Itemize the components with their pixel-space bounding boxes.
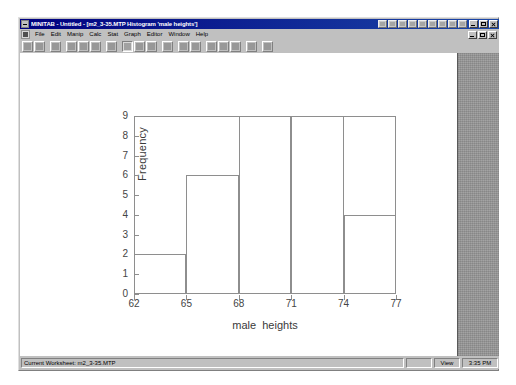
child-system-menu-icon[interactable] — [21, 30, 30, 39]
menu-bar: File Edit Manip Calc Stat Graph Editor W… — [20, 29, 499, 40]
toolbar-overflow-icon-5[interactable] — [418, 20, 427, 28]
toolbar-overflow-icon-7[interactable] — [438, 20, 447, 28]
y-axis-tick-label: 6 — [122, 171, 128, 179]
status-view-pane: View — [434, 358, 460, 368]
x-axis-tick-label: 74 — [329, 299, 359, 309]
toolbar-overflow-icon-3[interactable] — [398, 20, 407, 28]
x-axis-label: male heights — [134, 319, 396, 331]
brush-icon[interactable] — [146, 41, 157, 52]
y-axis-tick-label: 1 — [122, 270, 128, 278]
y-axis-tick-label: 4 — [122, 211, 128, 219]
system-menu-icon[interactable] — [21, 20, 29, 28]
menu-item-calc[interactable]: Calc — [86, 31, 104, 38]
current-worksheet-icon[interactable] — [178, 41, 189, 52]
histogram-plot: Frequency male heights 01234567896265687… — [20, 53, 457, 356]
paste-icon[interactable] — [90, 41, 101, 52]
child-restore-button[interactable] — [478, 31, 487, 39]
screenshot-page: MINITAB - Untitled - [m2_3-35.MTP Histog… — [0, 0, 516, 385]
toolbar-overflow-icon-6[interactable] — [428, 20, 437, 28]
child-minimize-button[interactable] — [468, 31, 477, 39]
y-axis-tick-mark — [134, 215, 139, 216]
window-title: MINITAB - Untitled - [m2_3-35.MTP Histog… — [31, 21, 378, 28]
histogram-bar[interactable] — [344, 215, 396, 294]
y-axis-tick-label: 3 — [122, 231, 128, 239]
menu-item-file[interactable]: File — [32, 31, 48, 38]
cancel-icon[interactable] — [246, 41, 257, 52]
child-close-button[interactable] — [488, 31, 497, 39]
maximize-button[interactable] — [479, 20, 488, 28]
open-worksheet-icon[interactable] — [34, 41, 45, 52]
show-info-icon[interactable] — [230, 41, 241, 52]
menu-item-manip[interactable]: Manip — [64, 31, 86, 38]
y-axis-tick-mark — [134, 156, 139, 157]
title-bar: MINITAB - Untitled - [m2_3-35.MTP Histog… — [20, 19, 499, 29]
close-button[interactable] — [489, 20, 498, 28]
edit-last-dialog-icon[interactable] — [134, 41, 145, 52]
menu-item-edit[interactable]: Edit — [48, 31, 64, 38]
menu-item-editor[interactable]: Editor — [144, 31, 166, 38]
x-axis-tick-label: 77 — [381, 299, 411, 309]
y-axis-tick-label: 7 — [122, 152, 128, 160]
status-bar: Current Worksheet: m2_3-35.MTP View 3:35… — [20, 356, 499, 369]
titlebar-icon-cluster — [378, 20, 467, 28]
copy-icon[interactable] — [78, 41, 89, 52]
histogram-bar[interactable] — [291, 116, 343, 294]
y-axis-tick-mark — [134, 235, 139, 236]
x-axis-tick-label: 71 — [276, 299, 306, 309]
main-toolbar — [20, 40, 499, 53]
y-axis-tick-mark — [134, 136, 139, 137]
child-window-controls — [468, 31, 497, 39]
y-axis-tick-mark — [134, 175, 139, 176]
y-axis-tick-mark — [134, 195, 139, 196]
minimize-button[interactable] — [469, 20, 478, 28]
toolbar-overflow-icon-1[interactable] — [378, 20, 387, 28]
menu-item-window[interactable]: Window — [165, 31, 192, 38]
status-time-pane: 3:35 PM — [462, 358, 498, 368]
y-axis-tick-label: 2 — [122, 250, 128, 258]
new-worksheet-icon[interactable] — [22, 41, 33, 52]
project-manager-icon[interactable] — [190, 41, 201, 52]
toolbar-overflow-icon-4[interactable] — [408, 20, 417, 28]
y-axis-tick-label: 5 — [122, 191, 128, 199]
menu-item-graph[interactable]: Graph — [121, 31, 144, 38]
mdi-client-area: Frequency male heights 01234567896265687… — [20, 53, 499, 356]
x-axis-tick-label: 68 — [224, 299, 254, 309]
show-worksheets-icon[interactable] — [206, 41, 217, 52]
y-axis-tick-mark — [134, 116, 139, 117]
cut-icon[interactable] — [66, 41, 77, 52]
y-axis-tick-label: 8 — [122, 132, 128, 140]
select-cursor-icon[interactable] — [122, 41, 133, 52]
y-axis-tick-label: 0 — [122, 290, 128, 298]
minitab-application-window: MINITAB - Untitled - [m2_3-35.MTP Histog… — [18, 17, 499, 371]
status-spacer-pane — [406, 358, 432, 368]
x-axis-tick-label: 65 — [171, 299, 201, 309]
toolbar-overflow-icon-2[interactable] — [388, 20, 397, 28]
help-pointer-icon[interactable] — [262, 41, 273, 52]
graph-window: Frequency male heights 01234567896265687… — [20, 53, 458, 356]
histogram-bar[interactable] — [186, 175, 238, 294]
undo-icon[interactable] — [106, 41, 117, 52]
show-graphs-icon[interactable] — [218, 41, 229, 52]
session-window-icon[interactable] — [162, 41, 173, 52]
window-controls — [469, 20, 498, 28]
print-icon[interactable] — [50, 41, 61, 52]
menu-item-help[interactable]: Help — [193, 31, 211, 38]
toolbar-overflow-icon-9[interactable] — [458, 20, 467, 28]
histogram-bar[interactable] — [134, 254, 186, 294]
menu-item-stat[interactable]: Stat — [104, 31, 121, 38]
y-axis-tick-label: 9 — [122, 112, 128, 120]
histogram-bar[interactable] — [239, 116, 291, 294]
x-axis-tick-label: 62 — [119, 299, 149, 309]
status-worksheet: Current Worksheet: m2_3-35.MTP — [21, 358, 404, 368]
toolbar-overflow-icon-8[interactable] — [448, 20, 457, 28]
